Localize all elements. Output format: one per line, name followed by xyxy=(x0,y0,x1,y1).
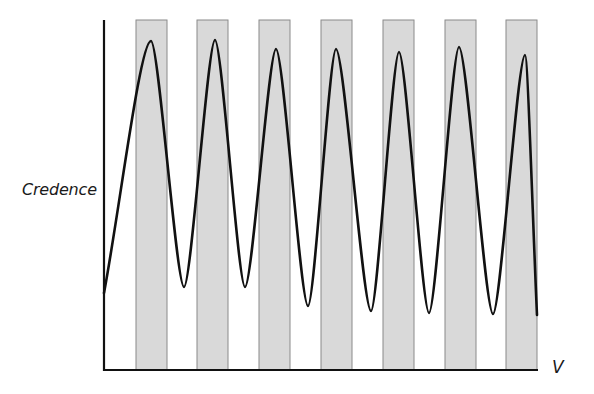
y-axis-label: Credence xyxy=(22,180,97,199)
x-axis-label: V xyxy=(552,357,564,377)
shaded-band-3 xyxy=(259,20,290,370)
shaded-band-6 xyxy=(445,20,476,370)
shaded-band-4 xyxy=(321,20,352,370)
shaded-band-5 xyxy=(383,20,414,370)
shaded-band-2 xyxy=(197,20,228,370)
